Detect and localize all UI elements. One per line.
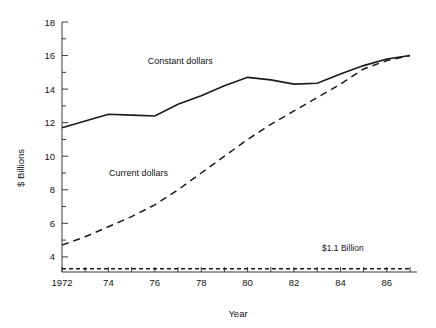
series-label: $1.1 Billion — [322, 243, 364, 253]
x-tick-label: 80 — [242, 277, 253, 288]
line-chart: 4681012141618197274767880828486 Constant… — [0, 0, 436, 328]
y-tick-label: 16 — [44, 50, 55, 61]
y-tick-label: 10 — [44, 151, 55, 162]
series-line — [62, 56, 410, 246]
chart-container: 4681012141618197274767880828486 Constant… — [0, 0, 436, 328]
y-tick-label: 8 — [50, 184, 55, 195]
data-series — [62, 56, 410, 269]
series-line — [62, 56, 410, 128]
x-tick-label: 84 — [335, 277, 346, 288]
series-label: Current dollars — [109, 168, 169, 178]
x-tick-label: 74 — [103, 277, 114, 288]
axes — [62, 22, 417, 272]
x-tick-label: 86 — [382, 277, 393, 288]
x-tick-label: 82 — [289, 277, 300, 288]
y-tick-label: 18 — [44, 17, 55, 28]
series-annotations: Constant dollarsCurrent dollars$1.1 Bill… — [109, 56, 364, 253]
y-tick-label: 4 — [50, 251, 55, 262]
x-tick-label: 78 — [196, 277, 207, 288]
y-tick-label: 6 — [50, 218, 55, 229]
tick-marks — [62, 22, 410, 272]
x-tick-label: 1972 — [51, 277, 72, 288]
y-axis-title: $ Billions — [15, 149, 26, 187]
x-tick-label: 76 — [150, 277, 161, 288]
series-label: Constant dollars — [148, 56, 214, 66]
y-tick-label: 12 — [44, 117, 55, 128]
y-tick-label: 14 — [44, 84, 55, 95]
x-axis-title: Year — [228, 308, 247, 319]
